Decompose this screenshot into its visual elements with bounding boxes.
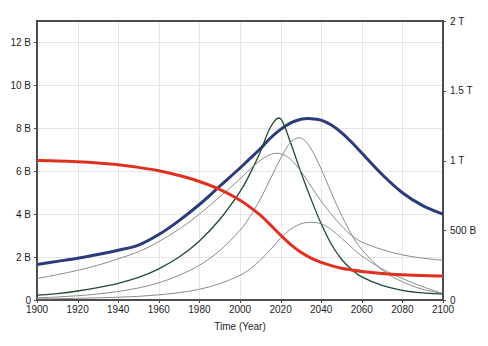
x-axis-labels: 1900192019401960198020002020204020602080… [26, 304, 455, 315]
x-tick-label: 1960 [148, 304, 171, 315]
x-tick-label: 2000 [229, 304, 252, 315]
y-tick-label-left: 4 B [16, 209, 31, 220]
x-axis-title: Time (Year) [214, 321, 266, 332]
x-tick-label: 2060 [351, 304, 374, 315]
gridlines [37, 21, 444, 300]
y-tick-label-right: 1 T [450, 155, 464, 166]
left-axis-labels: 02 B4 B6 B8 B10 B12 B [10, 37, 31, 306]
x-tick-label: 1900 [26, 304, 49, 315]
x-tick-label: 1980 [188, 304, 211, 315]
x-tick-label: 2040 [310, 304, 333, 315]
right-axis-labels: 0500 B1 T1.5 T2 T [450, 16, 476, 306]
y-tick-label-right: 500 B [450, 225, 476, 236]
y-tick-label-right: 2 T [450, 16, 464, 27]
x-tick-label: 2080 [391, 304, 414, 315]
chart-container: 02 B4 B6 B8 B10 B12 B 0500 B1 T1.5 T2 T … [0, 0, 488, 346]
x-tick-label: 2100 [432, 304, 455, 315]
y-tick-label-left: 10 B [10, 80, 31, 91]
y-tick-label-left: 2 B [16, 252, 31, 263]
x-tick-label: 1940 [107, 304, 130, 315]
y-tick-label-right: 1.5 T [450, 85, 473, 96]
y-tick-label-left: 12 B [10, 37, 31, 48]
x-tick-label: 1920 [66, 304, 89, 315]
y-tick-label-left: 6 B [16, 166, 31, 177]
x-tick-label: 2020 [269, 304, 292, 315]
y-tick-label-left: 8 B [16, 123, 31, 134]
chart-canvas: 02 B4 B6 B8 B10 B12 B 0500 B1 T1.5 T2 T … [0, 0, 488, 346]
